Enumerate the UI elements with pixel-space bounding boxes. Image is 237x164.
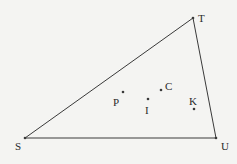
points <box>24 17 218 140</box>
label-K: K <box>189 95 197 107</box>
triangle-diagram: STUPICK <box>0 0 237 164</box>
point-U <box>215 137 218 140</box>
label-P: P <box>113 96 119 108</box>
label-T: T <box>198 12 205 24</box>
point-S <box>24 137 27 140</box>
diagram-svg: STUPICK <box>0 0 237 164</box>
point-I <box>147 98 150 101</box>
point-K <box>193 108 196 111</box>
label-I: I <box>145 104 149 116</box>
point-C <box>160 89 163 92</box>
point-T <box>192 17 195 20</box>
label-S: S <box>15 140 21 152</box>
edge-ST <box>25 18 193 138</box>
triangle-edges <box>25 18 216 138</box>
label-C: C <box>165 80 172 92</box>
label-U: U <box>221 140 229 152</box>
point-P <box>122 91 125 94</box>
labels: STUPICK <box>15 12 229 152</box>
edge-TU <box>193 18 216 138</box>
